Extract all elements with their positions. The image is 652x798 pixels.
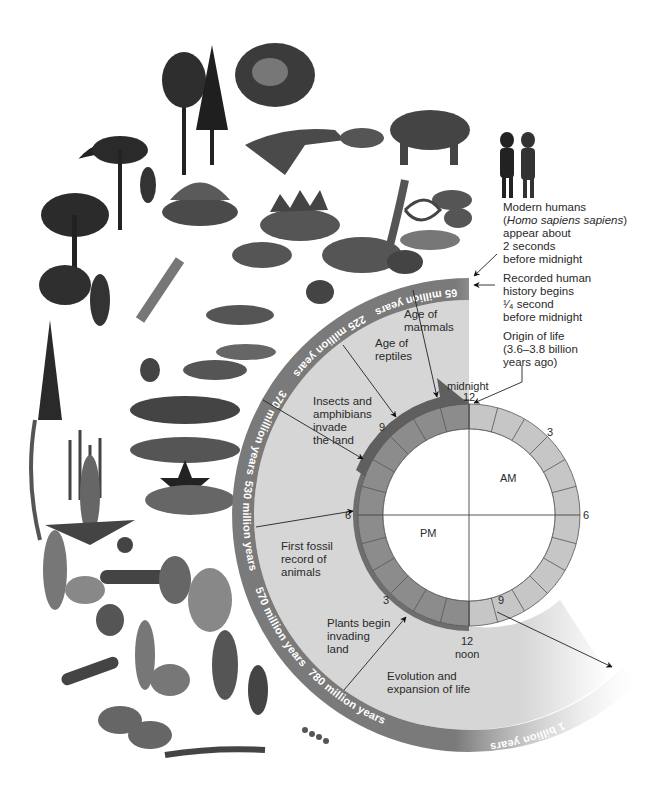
hour-12-noon: 12 (461, 635, 473, 647)
midnight-label: midnight (447, 380, 489, 392)
noon-label: noon (455, 648, 479, 660)
hour-3-pm: 3 (383, 594, 389, 606)
am-label: AM (500, 472, 517, 484)
species-name: Homo sapiens sapiens (507, 214, 623, 226)
event-age-of-reptiles: Age of reptiles (375, 337, 412, 363)
modern-humans-rest: appear about 2 seconds before midnight (503, 227, 582, 265)
annotation-origin-of-life: Origin of life (3.6–3.8 billion years ag… (503, 330, 578, 369)
pm-label: PM (420, 527, 437, 539)
event-evolution-expansion: Evolution and expansion of life (387, 670, 470, 696)
hour-9-am: 9 (498, 594, 504, 606)
annotation-recorded-history: Recorded human history begins ¹⁄₄ second… (503, 272, 591, 324)
hour-6-am: 6 (583, 509, 589, 521)
event-first-fossil: First fossil record of animals (281, 540, 333, 579)
hour-12-top: 12 (463, 391, 475, 403)
hour-9-pm: 9 (379, 421, 385, 433)
event-plants-invade: Plants begin invading land (327, 617, 390, 656)
hour-6-pm: 6 (345, 509, 351, 521)
event-insects-amphibians: Insects and amphibians invade the land (313, 395, 372, 447)
event-age-of-mammals: Age of mammals (404, 308, 454, 334)
hour-3-am: 3 (547, 426, 553, 438)
modern-humans-line1: Modern humans (503, 201, 586, 213)
annotation-modern-humans: Modern humans(Homo sapiens sapiens)appea… (503, 188, 627, 266)
